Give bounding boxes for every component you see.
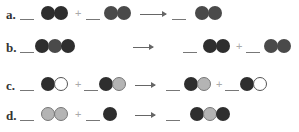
coefficient-blank bbox=[20, 19, 34, 20]
molecule bbox=[41, 6, 67, 20]
reaction-c: c. + + bbox=[0, 75, 299, 97]
coefficient-blank bbox=[20, 120, 34, 121]
atom-dark bbox=[184, 77, 198, 91]
atom-dark bbox=[216, 107, 230, 121]
molecule bbox=[41, 107, 67, 121]
atom-dark bbox=[41, 77, 55, 91]
atom-dark bbox=[99, 77, 113, 91]
atom-light bbox=[203, 107, 217, 121]
reaction-label: c. bbox=[6, 78, 15, 94]
molecule bbox=[103, 107, 116, 121]
molecule bbox=[203, 39, 229, 53]
atom-dark bbox=[103, 107, 117, 121]
molecule bbox=[104, 6, 130, 20]
coefficient-blank bbox=[86, 19, 100, 20]
atom-light bbox=[197, 77, 211, 91]
plus-sign: + bbox=[75, 78, 81, 90]
plus-sign: + bbox=[75, 108, 81, 120]
coefficient-blank bbox=[20, 52, 34, 53]
coefficient-blank bbox=[86, 120, 100, 121]
molecule bbox=[35, 39, 74, 53]
atom-mid bbox=[208, 6, 222, 20]
atom-white bbox=[54, 77, 68, 91]
atom-mid bbox=[117, 6, 131, 20]
coefficient-blank bbox=[166, 120, 180, 121]
atom-dark bbox=[240, 77, 254, 91]
coefficient-blank bbox=[166, 90, 180, 91]
molecule bbox=[41, 77, 67, 91]
atom-dark bbox=[61, 39, 75, 53]
molecule bbox=[184, 77, 210, 91]
reaction-label: a. bbox=[6, 7, 16, 23]
atom-mid bbox=[104, 6, 118, 20]
plus-sign: + bbox=[236, 40, 242, 52]
atom-dark bbox=[41, 6, 55, 20]
atom-dark bbox=[216, 39, 230, 53]
atom-mid bbox=[264, 39, 278, 53]
atom-dark bbox=[190, 107, 204, 121]
atom-dark bbox=[35, 39, 49, 53]
coefficient-blank bbox=[84, 90, 98, 91]
reaction-label: d. bbox=[6, 108, 16, 124]
atom-dark bbox=[203, 39, 217, 53]
atom-light bbox=[112, 77, 126, 91]
atom-mid bbox=[48, 39, 62, 53]
reaction-arrow bbox=[133, 47, 153, 48]
coefficient-blank bbox=[225, 90, 239, 91]
atom-light bbox=[54, 107, 68, 121]
reaction-arrow bbox=[135, 85, 155, 86]
reaction-arrow bbox=[140, 14, 166, 15]
coefficient-blank bbox=[246, 52, 260, 53]
plus-sign: + bbox=[75, 7, 81, 19]
coefficient-blank bbox=[183, 52, 197, 53]
atom-dark bbox=[54, 6, 68, 20]
atom-white bbox=[253, 77, 267, 91]
molecule bbox=[240, 77, 266, 91]
molecule bbox=[195, 6, 221, 20]
atom-light bbox=[41, 107, 55, 121]
reaction-b: b. + bbox=[0, 37, 299, 59]
reaction-arrow bbox=[135, 115, 155, 116]
molecule bbox=[99, 77, 125, 91]
reaction-label: b. bbox=[6, 40, 16, 56]
reaction-a: a. + bbox=[0, 4, 299, 26]
reaction-d: d. + bbox=[0, 105, 299, 127]
molecule bbox=[190, 107, 229, 121]
plus-sign: + bbox=[216, 78, 222, 90]
coefficient-blank bbox=[20, 90, 34, 91]
atom-mid bbox=[277, 39, 291, 53]
coefficient-blank bbox=[172, 19, 186, 20]
atom-mid bbox=[195, 6, 209, 20]
molecule bbox=[264, 39, 290, 53]
